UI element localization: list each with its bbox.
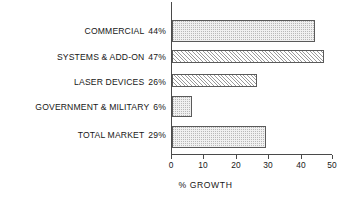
x-tick-40	[301, 155, 302, 159]
category-name-government-military: GOVERNMENT & MILITARY	[35, 102, 149, 112]
bar-commercial	[172, 20, 315, 42]
category-label-column: COMMERCIAL44% SYSTEMS & ADD-ON47% LASER …	[0, 0, 166, 160]
category-name-total-market: TOTAL MARKET	[78, 130, 145, 140]
bar-total-market	[172, 126, 266, 148]
bar-laser-devices	[172, 74, 257, 87]
x-tick-label-0: 0	[169, 161, 174, 169]
x-tick-10	[203, 155, 204, 159]
category-name-commercial: COMMERCIAL	[85, 26, 145, 36]
x-tick-label-10: 10	[198, 161, 207, 169]
x-tick-label-50: 50	[327, 161, 336, 169]
x-axis-title: % GROWTH	[179, 181, 233, 190]
category-name-systems-add-on: SYSTEMS & ADD-ON	[57, 52, 144, 62]
category-label-total-market: TOTAL MARKET29%	[0, 131, 166, 140]
bar-government-military	[172, 96, 192, 117]
bar-chart: COMMERCIAL44% SYSTEMS & ADD-ON47% LASER …	[0, 0, 355, 208]
category-name-laser-devices: LASER DEVICES	[74, 77, 144, 87]
category-label-commercial: COMMERCIAL44%	[0, 27, 166, 36]
category-value-systems-add-on: 47%	[148, 52, 166, 62]
category-label-systems-add-on: SYSTEMS & ADD-ON47%	[0, 53, 166, 62]
category-value-laser-devices: 26%	[148, 77, 166, 87]
category-label-government-military: GOVERNMENT & MILITARY6%	[0, 103, 166, 112]
x-tick-30	[268, 155, 269, 159]
bar-systems-add-on	[172, 50, 324, 63]
category-value-commercial: 44%	[148, 26, 166, 36]
x-axis-title-row: % GROWTH	[0, 181, 355, 190]
category-axis-line	[171, 154, 332, 155]
plot-area: 0 10 20 30 40 50	[171, 2, 333, 155]
category-value-government-military: 6%	[153, 102, 166, 112]
x-tick-50	[332, 155, 333, 159]
category-value-total-market: 29%	[148, 130, 166, 140]
x-tick-label-40: 40	[296, 161, 305, 169]
x-tick-label-20: 20	[231, 161, 240, 169]
x-tick-0	[171, 155, 172, 159]
x-tick-20	[236, 155, 237, 159]
category-label-laser-devices: LASER DEVICES26%	[0, 78, 166, 87]
x-tick-label-30: 30	[263, 161, 272, 169]
